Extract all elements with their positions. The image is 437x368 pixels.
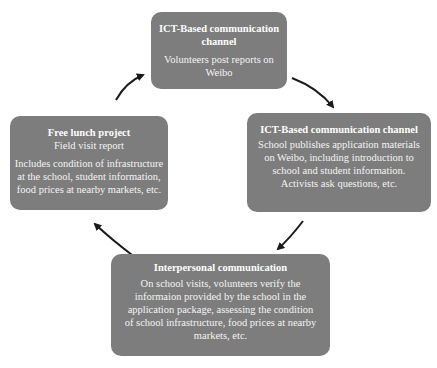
arrow-right-to-bottom xyxy=(278,221,303,249)
arrow-bottom-to-left xyxy=(95,224,136,258)
arrow-left-to-top xyxy=(116,75,143,100)
node-interpersonal: Interpersonal communication On school vi… xyxy=(111,254,330,356)
node-body: School publishes application materials o… xyxy=(253,138,425,177)
node-body: Includes condition of infrastructure at … xyxy=(14,157,164,196)
node-ict-school: ICT-Based communication channel School p… xyxy=(247,113,431,212)
node-ict-volunteers: ICT-Based communication channel Voluntee… xyxy=(151,12,287,89)
node-body: Volunteers post reports on Weibo xyxy=(157,53,281,79)
node-title: ICT-Based communication channel xyxy=(157,22,281,48)
node-title: Interpersonal communication xyxy=(117,261,324,274)
node-body-2: Activists ask questions, etc. xyxy=(253,177,425,190)
node-title: ICT-Based communication channel xyxy=(253,123,425,136)
arrow-top-to-right xyxy=(292,78,333,107)
node-free-lunch: Free lunch project Field visit report In… xyxy=(10,116,168,210)
node-subtitle: Field visit report xyxy=(14,139,164,152)
node-body: On school visits, volunteers verify the … xyxy=(117,277,324,342)
node-title: Free lunch project xyxy=(14,126,164,139)
